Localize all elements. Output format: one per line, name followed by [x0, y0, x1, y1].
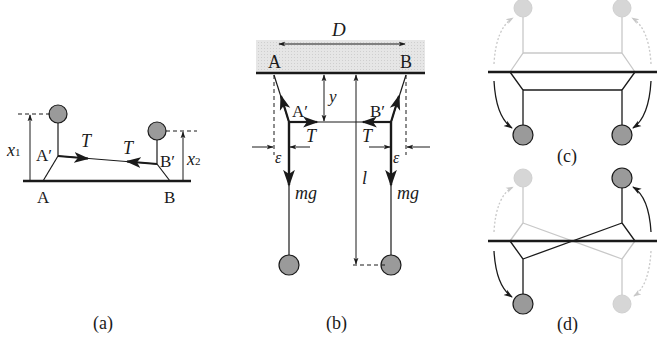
ghost-configuration [494, 17, 651, 72]
label-epsilon-right: ε [393, 149, 400, 166]
bob-right [612, 125, 632, 145]
ghost-bob-left [514, 0, 532, 17]
label-x2: x2 [186, 149, 201, 169]
swing-arrow-right [633, 81, 651, 128]
link-tension-arrow-right [391, 96, 399, 122]
caption-d: (d) [557, 314, 578, 335]
tension-arrow-right [127, 162, 157, 165]
ghost-bob-right [613, 295, 631, 313]
caption-b: (b) [326, 313, 347, 334]
ghost-bob-left [514, 169, 532, 187]
label-a-prime: A′ [292, 102, 308, 121]
label-epsilon-left: ε [275, 149, 282, 166]
label-tension-right: T [123, 138, 135, 158]
ghost-bob-right [613, 0, 631, 17]
bob-right [148, 122, 166, 140]
label-b-prime: B′ [370, 102, 385, 121]
label-a: A [268, 52, 281, 72]
label-b: B [400, 52, 412, 72]
label-tension-left: T [306, 126, 318, 146]
swing-arrow-left [494, 81, 512, 128]
swing-arrow-left [494, 251, 512, 297]
bob-left [49, 105, 67, 123]
panel-c: (c) [488, 0, 657, 167]
label-y: y [327, 87, 337, 106]
label-b-prime: B′ [160, 152, 175, 171]
caption-a: (a) [93, 313, 113, 334]
link-tension-arrow-left [281, 96, 289, 122]
caption-c: (c) [557, 146, 577, 167]
label-l: l [362, 168, 367, 188]
label-d: D [331, 19, 346, 40]
panel-d: (d) [488, 168, 657, 335]
bob-right [612, 168, 632, 188]
label-a: A [37, 188, 50, 207]
label-a-prime: A′ [36, 146, 52, 165]
label-x1: x1 [6, 140, 21, 160]
label-tension-left: T [81, 131, 93, 151]
tension-arrow-left [58, 156, 88, 159]
current-configuration [510, 72, 635, 126]
label-b: B [164, 188, 175, 207]
label-tension-right: T [362, 126, 374, 146]
panel-b: D A B A′ B′ y l T T ε ε mg mg (b) [252, 19, 430, 334]
panel-a: A B A′ B′ x1 x2 T T (a) [6, 105, 201, 334]
coupled-pendulums-figure: A B A′ B′ x1 x2 T T (a) [0, 0, 661, 340]
label-mg-left: mg [295, 183, 317, 203]
swing-arrow-right [633, 187, 651, 232]
bob-left [279, 255, 299, 275]
label-mg-right: mg [397, 183, 419, 203]
bob-left [513, 294, 533, 314]
bob-left [513, 125, 533, 145]
